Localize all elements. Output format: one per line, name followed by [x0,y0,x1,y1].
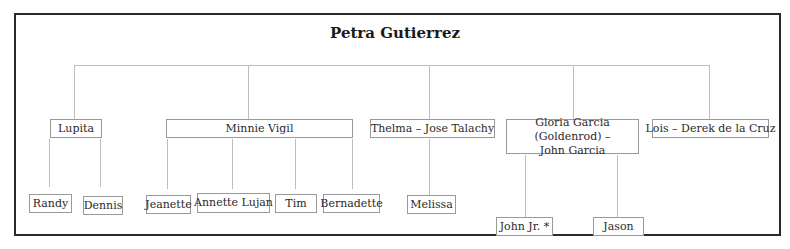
connector-annette [232,139,233,189]
person-box-melissa: Melissa [407,195,456,214]
person-name: Dennis [84,199,123,213]
person-box-tim: Tim [275,194,317,213]
person-name: Lupita [58,122,94,136]
connector-dennis [100,139,101,187]
person-name: Melissa [410,198,453,212]
connector-randy [49,139,50,187]
person-box-jeanette: Jeanette [146,195,191,214]
connector-melissa [429,139,430,195]
person-name: Bernadette [320,197,382,211]
connector-john-jr [525,155,526,217]
person-box-lupita: Lupita [50,119,102,138]
person-box-minnie-vigil: Minnie Vigil [166,119,353,138]
connector-lois [709,65,710,119]
connector-jeanette [167,139,168,189]
person-name-line2: John Garcia [540,144,606,158]
person-box-lois-derek-de-la-cruz: Lois – Derek de la Cruz [652,119,769,138]
connector-minnie [248,65,249,119]
person-name: John Jr. * [500,220,550,234]
person-box-jason: Jason [593,217,644,236]
person-name: Minnie Vigil [226,122,294,136]
root-person-title: Petra Gutierrez [0,24,790,42]
connector-gloria [573,65,574,119]
person-box-john-jr: John Jr. * [496,217,553,236]
person-box-randy: Randy [29,194,72,213]
connector-tim [295,139,296,189]
person-name: Jeanette [145,198,191,212]
person-name-line1: Gloria Garcia (Goldenrod) – [507,116,638,144]
person-box-dennis: Dennis [83,196,123,215]
person-name: Annette Lujan [194,196,273,210]
person-box-annette-lujan: Annette Lujan [197,193,270,213]
connector-jason [617,155,618,217]
person-name: Lois – Derek de la Cruz [645,122,775,136]
person-name: Randy [33,197,68,211]
connector-lupita [74,65,75,119]
person-box-thelma-jose-talachy: Thelma – Jose Talachy [370,119,495,138]
person-name: Thelma – Jose Talachy [371,122,494,136]
person-name: Tim [285,197,306,211]
person-box-bernadette: Bernadette [323,194,380,213]
person-box-gloria-john-garcia: Gloria Garcia (Goldenrod) – John Garcia [506,119,639,154]
connector-thelma [429,65,430,119]
connector-bernadette [352,139,353,189]
root-horizontal-connector [74,65,710,66]
person-name: Jason [603,220,633,234]
